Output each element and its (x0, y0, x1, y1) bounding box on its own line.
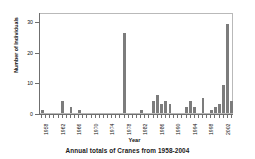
x-tick-mark (219, 115, 220, 118)
x-tick-mark (198, 115, 199, 118)
y-tick-mark (35, 83, 39, 84)
x-tick-label: 1966 (76, 124, 82, 135)
x-tick-mark (86, 115, 87, 118)
x-tick-mark (181, 115, 182, 118)
bar (169, 104, 172, 113)
x-tick-mark (153, 115, 154, 118)
x-tick-label: 1986 (159, 124, 165, 135)
chart-caption: Annual totals of Cranes from 1958-2004 (0, 147, 255, 154)
x-tick-mark (91, 115, 92, 118)
x-tick-mark (58, 115, 59, 118)
x-tick-mark (202, 115, 203, 118)
bar (214, 107, 217, 113)
y-tick-label: 30 (19, 19, 33, 25)
x-tick-label: 1998 (208, 124, 214, 135)
x-tick-mark (148, 115, 149, 118)
bar (226, 24, 229, 113)
bar (70, 107, 73, 113)
y-tick-mark (35, 22, 39, 23)
y-tick-label: 20 (19, 50, 33, 56)
x-tick-mark (231, 115, 232, 118)
x-tick-mark (194, 115, 195, 118)
x-tick-label: 1978 (126, 124, 132, 135)
x-tick-mark (161, 115, 162, 118)
plot-frame (39, 13, 233, 114)
x-tick-mark (62, 115, 63, 118)
x-tick-label: 1974 (109, 124, 115, 135)
x-tick-mark (95, 115, 96, 118)
bar (164, 101, 167, 113)
chart-figure: 0102030 19581962196619701974197819821986… (0, 0, 255, 159)
x-tick-mark (140, 115, 141, 118)
x-tick-mark (190, 115, 191, 118)
x-tick-label: 1994 (192, 124, 198, 135)
x-tick-mark (157, 115, 158, 118)
x-tick-mark (70, 115, 71, 118)
x-tick-mark (177, 115, 178, 118)
y-tick-mark (35, 114, 39, 115)
x-tick-mark (119, 115, 120, 118)
x-tick-label: 1990 (175, 124, 181, 135)
x-tick-mark (107, 115, 108, 118)
x-tick-mark (124, 115, 125, 118)
x-tick-mark (136, 115, 137, 118)
y-tick-mark (35, 53, 39, 54)
bar (189, 101, 192, 113)
x-tick-label: 1970 (93, 124, 99, 135)
x-tick-mark (78, 115, 79, 118)
y-axis-line (39, 13, 40, 114)
bar (210, 110, 213, 113)
bar (152, 101, 155, 113)
x-tick-mark (227, 115, 228, 118)
bar (218, 104, 221, 113)
x-tick-mark (74, 115, 75, 118)
y-tick-label: 10 (19, 80, 33, 86)
bar (230, 101, 233, 113)
x-tick-mark (111, 115, 112, 118)
bar (160, 104, 163, 113)
bar (41, 110, 44, 113)
y-axis-title: Number of Individuals (13, 5, 19, 85)
x-axis-title: Year (0, 137, 255, 143)
x-tick-mark (144, 115, 145, 118)
bar (193, 107, 196, 113)
x-tick-mark (49, 115, 50, 118)
bar (140, 110, 143, 113)
x-tick-label: 1958 (43, 124, 49, 135)
x-tick-mark (132, 115, 133, 118)
x-tick-mark (210, 115, 211, 118)
x-tick-mark (223, 115, 224, 118)
x-tick-mark (173, 115, 174, 118)
x-tick-mark (66, 115, 67, 118)
bar (156, 95, 159, 113)
bar (185, 107, 188, 113)
y-tick-label: 0 (19, 111, 33, 117)
x-tick-label: 2002 (225, 124, 231, 135)
x-tick-mark (169, 115, 170, 118)
x-tick-mark (214, 115, 215, 118)
x-tick-mark (186, 115, 187, 118)
bar (222, 85, 225, 113)
x-tick-mark (41, 115, 42, 118)
x-tick-mark (99, 115, 100, 118)
x-tick-mark (206, 115, 207, 118)
plot-area (40, 14, 232, 113)
bar (202, 98, 205, 113)
x-tick-label: 1962 (60, 124, 66, 135)
x-tick-mark (45, 115, 46, 118)
x-tick-mark (53, 115, 54, 118)
x-tick-mark (82, 115, 83, 118)
x-tick-mark (128, 115, 129, 118)
bar (123, 33, 126, 113)
x-tick-mark (103, 115, 104, 118)
x-tick-mark (165, 115, 166, 118)
x-tick-mark (115, 115, 116, 118)
bar (61, 101, 64, 113)
bar (78, 110, 81, 113)
x-tick-label: 1982 (142, 124, 148, 135)
